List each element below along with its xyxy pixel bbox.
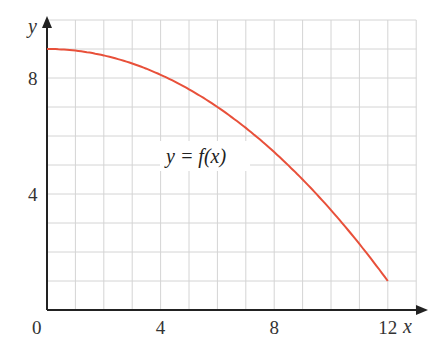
y-tick-label: 8 bbox=[28, 68, 38, 89]
y-axis-label: y bbox=[26, 15, 37, 38]
curve-annotation: y = f(x) bbox=[164, 145, 226, 168]
y-tick-label: 4 bbox=[28, 184, 38, 205]
x-tick-label: 12 bbox=[378, 317, 397, 338]
x-axis-label: x bbox=[402, 315, 412, 337]
x-tick-label: 4 bbox=[156, 317, 166, 338]
y-axis-arrow-icon bbox=[42, 16, 52, 28]
tick-labels: 0481248 bbox=[28, 68, 397, 338]
chart: 0481248 x y y = f(x) bbox=[0, 0, 436, 355]
x-tick-label: 0 bbox=[32, 317, 42, 338]
x-tick-label: 8 bbox=[269, 317, 279, 338]
x-axis-arrow-icon bbox=[416, 305, 428, 315]
